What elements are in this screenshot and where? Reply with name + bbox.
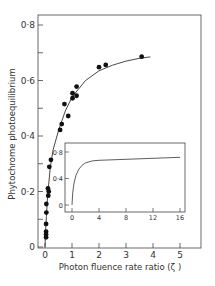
y-tick-label: 0·8 xyxy=(21,20,36,30)
data-point xyxy=(66,114,71,119)
inset-y-tick-label: 0·4 xyxy=(53,175,63,183)
x-tick-label: 2 xyxy=(96,250,102,260)
data-point xyxy=(59,122,64,127)
inset-x-tick-label: 16 xyxy=(176,214,184,222)
y-tick-label: 0·4 xyxy=(21,131,36,141)
data-point xyxy=(70,91,75,96)
data-point xyxy=(97,65,102,70)
inset-frame xyxy=(65,143,185,212)
data-point xyxy=(139,54,144,59)
data-point xyxy=(44,210,49,215)
data-point xyxy=(58,127,63,132)
data-point xyxy=(70,96,75,101)
inset-plot: 00·40·80481216 xyxy=(53,143,185,222)
x-tick-label: 0 xyxy=(42,250,48,260)
data-point xyxy=(103,63,108,68)
inset-y-tick-label: 0·8 xyxy=(53,149,63,157)
y-tick-label: 0·6 xyxy=(21,76,36,86)
data-point xyxy=(44,202,49,207)
inset-x-tick-label: 8 xyxy=(124,214,128,222)
data-point xyxy=(46,193,51,198)
inset-x-tick-label: 4 xyxy=(97,214,101,222)
y-tick-label: 0 xyxy=(29,242,35,252)
data-point xyxy=(49,157,54,162)
x-tick-label: 5 xyxy=(177,250,183,260)
inset-x-tick-label: 12 xyxy=(149,214,157,222)
y-axis-title: Phytochrome photoequilibrium xyxy=(7,68,17,199)
data-point xyxy=(46,186,51,191)
data-point xyxy=(74,93,79,98)
data-point xyxy=(44,229,49,234)
data-point xyxy=(74,84,79,89)
data-point xyxy=(47,164,52,169)
x-tick-label: 1 xyxy=(69,250,75,260)
x-tick-label: 4 xyxy=(150,250,156,260)
x-tick-label: 3 xyxy=(123,250,129,260)
inset-x-tick-label: 0 xyxy=(70,214,74,222)
x-axis-title: Photon fluence rate ratio (ζ ) xyxy=(59,262,182,272)
y-tick-label: 0·2 xyxy=(21,187,35,197)
inset-y-tick-label: 0 xyxy=(59,202,63,210)
chart: 00·20·40·60·8012345 00·40·80481216 Phyto… xyxy=(0,0,215,286)
data-point xyxy=(44,222,49,227)
data-point xyxy=(62,102,67,107)
